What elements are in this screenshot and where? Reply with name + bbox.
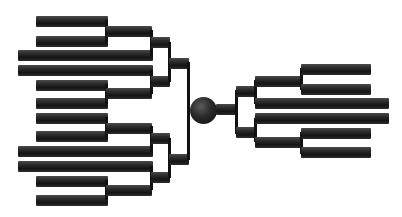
left-leaf-4 [18,65,153,76]
left-branch-7-8 [106,123,152,134]
left-leaf-1 [36,16,108,27]
right-branch-lower [236,127,256,138]
right-branch-upper [236,86,256,97]
left-branch-11-12 [106,185,152,196]
left-leaf-7 [36,113,108,124]
right-leaf-6 [301,147,371,158]
left-branch-1-2 [106,26,152,37]
left-branch-upper [169,58,189,69]
left-leaf-2 [36,36,108,47]
left-leaf-11 [36,176,108,187]
right-branch-5-6 [255,137,302,148]
right-branch-1-2 [255,76,302,87]
left-leaf-12 [36,195,108,206]
right-leaf-2 [301,84,371,95]
left-leaf-10 [18,161,153,172]
left-leaf-8 [36,131,108,142]
left-leaf-6 [36,98,108,109]
right-leaf-5 [301,128,371,139]
right-leaf-4 [255,113,389,124]
root-node [190,97,217,124]
left-leaf-3 [18,50,153,61]
right-leaf-1 [301,64,371,75]
left-branch-lower [169,154,189,165]
left-leaf-9 [18,146,153,157]
left-branch-5-6 [106,88,152,99]
left-leaf-5 [36,80,108,91]
right-stem [216,104,237,115]
right-leaf-3 [255,98,389,109]
